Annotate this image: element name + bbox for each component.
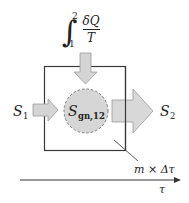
integral-upper-limit: 2 [72,11,78,21]
system-label: m × Δτ [134,163,176,176]
entropy-inflow-arrow-icon [33,99,58,121]
entropy-balance-diagram: ∫ 2 1 δQ T S 1 S gn,12 S 2 m × Δτ τ [0,0,189,203]
outflow-subscript: 2 [170,111,175,121]
outflow-symbol: S [160,103,170,119]
entropy-outflow-arrow-icon [112,89,153,133]
time-axis-label: τ [159,183,166,196]
integral-lower-limit: 1 [69,39,75,49]
time-axis-arrowhead-icon [174,177,181,183]
generation-subscript: gn,12 [78,111,105,122]
fraction-denominator: T [87,31,96,45]
inflow-label: S 1 [13,103,28,121]
heat-inflow-arrow-icon [74,53,97,84]
heat-transfer-term: ∫ 2 1 δQ T [62,11,100,49]
outflow-label: S 2 [160,103,175,121]
inflow-subscript: 1 [23,111,28,121]
inflow-symbol: S [13,103,23,119]
generation-symbol: S [68,103,78,119]
fraction-numerator: δQ [82,14,99,28]
